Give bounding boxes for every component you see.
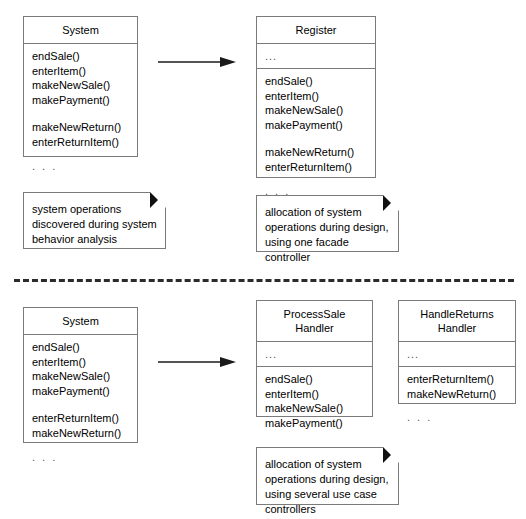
- operation-item: enterReturnItem(): [407, 372, 515, 387]
- class-operations-register: endSale() enterItem() makeNewSale() make…: [257, 69, 375, 203]
- operation-item: endSale(): [265, 372, 372, 387]
- class-name-processsale-handler: ProcessSale Handler: [257, 301, 372, 342]
- note-text: system operations discovered during syst…: [24, 193, 165, 255]
- class-name-register: Register: [257, 17, 375, 44]
- operation-item: endSale(): [265, 74, 375, 89]
- class-name-system-bottom: System: [24, 308, 137, 335]
- note-fold-corner-icon: [150, 192, 166, 208]
- operations-ellipsis: . . .: [32, 450, 137, 465]
- diagram-canvas: System endSale() enterItem() makeNewSale…: [0, 0, 526, 519]
- operation-item: makeNewSale(): [265, 401, 372, 416]
- operation-item: makeNewSale(): [265, 103, 375, 118]
- operation-item: makeNewReturn(): [407, 387, 515, 402]
- dashed-separator: [14, 279, 514, 282]
- operation-item: enterItem(): [265, 89, 375, 104]
- operation-item: makePayment(): [32, 384, 137, 399]
- note-use-case-controllers[interactable]: allocation of system operations during d…: [256, 447, 399, 505]
- operation-item: makeNewReturn(): [32, 120, 137, 135]
- operation-item: makePayment(): [265, 416, 372, 431]
- class-box-handlereturns-handler[interactable]: HandleReturns Handler ... enterReturnIte…: [398, 300, 516, 404]
- operation-item: makePayment(): [32, 93, 137, 108]
- operations-ellipsis: . . .: [32, 159, 137, 174]
- operation-item: makeNewReturn(): [265, 145, 375, 160]
- class-box-processsale-handler[interactable]: ProcessSale Handler ... endSale() enterI…: [256, 300, 373, 417]
- allocation-arrow-top: [158, 54, 238, 70]
- operations-ellipsis: . . .: [407, 410, 515, 425]
- class-attributes-register: ...: [257, 44, 375, 69]
- class-box-system-bottom[interactable]: System endSale() enterItem() makeNewSale…: [23, 307, 138, 443]
- class-attributes-processsale-handler: ...: [257, 342, 372, 367]
- operation-item: makeNewSale(): [32, 78, 137, 93]
- operation-item: enterReturnItem(): [265, 160, 375, 175]
- operation-item: endSale(): [32, 340, 137, 355]
- operation-item: enterReturnItem(): [32, 135, 137, 150]
- class-operations-processsale-handler: endSale() enterItem() makeNewSale() make…: [257, 367, 372, 435]
- class-box-register[interactable]: Register ... endSale() enterItem() makeN…: [256, 16, 376, 178]
- note-text: allocation of system operations during d…: [257, 196, 398, 273]
- note-fold-corner-icon: [383, 447, 399, 463]
- operation-item: enterItem(): [265, 387, 372, 402]
- operation-item: makePayment(): [265, 118, 375, 133]
- operation-item: makeNewSale(): [32, 369, 137, 384]
- operation-item: makeNewReturn(): [32, 426, 137, 441]
- class-name-handlereturns-handler: HandleReturns Handler: [399, 301, 515, 342]
- note-fold-corner-icon: [383, 195, 399, 211]
- class-name-system-top: System: [24, 17, 137, 44]
- note-text: allocation of system operations during d…: [257, 448, 398, 519]
- allocation-arrow-bottom: [158, 354, 238, 370]
- class-attributes-handlereturns-handler: ...: [399, 342, 515, 367]
- operation-item: enterItem(): [32, 64, 137, 79]
- note-facade-controller[interactable]: allocation of system operations during d…: [256, 195, 399, 252]
- operation-item: enterItem(): [32, 355, 137, 370]
- operation-item: enterReturnItem(): [32, 411, 137, 426]
- class-operations-system-bottom: endSale() enterItem() makeNewSale() make…: [24, 335, 137, 469]
- class-operations-system-top: endSale() enterItem() makeNewSale() make…: [24, 44, 137, 178]
- note-system-operations[interactable]: system operations discovered during syst…: [23, 192, 166, 249]
- class-box-system-top[interactable]: System endSale() enterItem() makeNewSale…: [23, 16, 138, 157]
- operation-item: endSale(): [32, 49, 137, 64]
- class-operations-handlereturns-handler: enterReturnItem() makeNewReturn() . . .: [399, 367, 515, 430]
